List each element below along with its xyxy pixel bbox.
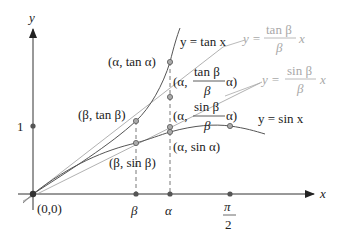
- label-alpha-sinline: (α, sin β β α): [173, 99, 237, 133]
- svg-text:2: 2: [225, 217, 232, 232]
- label-beta-tan-beta: (β, tan β): [78, 107, 126, 122]
- point-beta-tan-beta: [133, 118, 138, 123]
- point-alpha-sinline: [167, 124, 172, 129]
- point-y-one: [30, 123, 35, 128]
- x-tick-alpha: α: [165, 203, 173, 218]
- svg-text:β: β: [296, 81, 304, 96]
- svg-text:sin β: sin β: [194, 99, 219, 114]
- svg-text:β: β: [275, 40, 283, 55]
- trig-inequality-diagram: y x (0,0) 1 β α π 2 y = tan x y = sin x …: [0, 0, 347, 236]
- svg-text:tan β: tan β: [266, 22, 292, 37]
- x-tick-half-pi: π 2: [223, 199, 236, 232]
- svg-text:y =: y =: [260, 72, 280, 87]
- svg-text:β: β: [203, 83, 211, 98]
- svg-text:(α,: (α,: [173, 74, 187, 89]
- x-tick-beta: β: [130, 203, 138, 218]
- svg-text:y =: y =: [241, 31, 261, 46]
- svg-text:π: π: [224, 199, 231, 214]
- y-axis-label: y: [27, 10, 35, 25]
- svg-text:α): α): [226, 108, 237, 123]
- svg-text:(α,: (α,: [173, 108, 187, 123]
- point-halfpi-axis: [227, 191, 232, 196]
- svg-text:α): α): [226, 74, 237, 89]
- svg-text:x: x: [319, 72, 326, 87]
- svg-text:β: β: [203, 118, 211, 133]
- y-tick-one: 1: [17, 119, 24, 134]
- label-alpha-tan-alpha: (α, tan α): [108, 54, 156, 69]
- origin-label: (0,0): [37, 201, 62, 216]
- point-beta-sin-beta: [133, 140, 138, 145]
- tan-secant-line: [23, 47, 223, 202]
- point-alpha-tan-alpha: [167, 59, 172, 64]
- svg-text:tan β: tan β: [194, 64, 220, 79]
- label-beta-sin-beta: (β, sin β): [109, 155, 156, 170]
- point-origin: [30, 191, 36, 197]
- tan-curve-label: y = tan x: [180, 34, 226, 49]
- svg-text:sin β: sin β: [287, 63, 312, 78]
- point-beta-axis: [133, 191, 138, 196]
- leader-tan-line: [223, 40, 245, 47]
- point-alpha-axis: [167, 191, 172, 196]
- sin-curve-label: y = sin x: [258, 111, 304, 126]
- label-alpha-tanline: (α, tan β β α): [173, 64, 237, 98]
- point-alpha-sin-alpha: [167, 129, 172, 134]
- svg-text:x: x: [298, 31, 305, 46]
- point-alpha-tanline: [167, 94, 172, 99]
- tan-line-label: y = tan β β x: [241, 22, 305, 55]
- sin-line-label: y = sin β β x: [260, 63, 326, 96]
- x-axis-label: x: [319, 186, 326, 201]
- point-halfpi-one: [227, 123, 232, 128]
- label-alpha-sin-alpha: (α, sin α): [173, 139, 220, 154]
